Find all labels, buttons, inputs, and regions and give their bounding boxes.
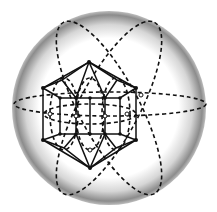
sphere (12, 11, 206, 205)
diagram-canvas (0, 0, 217, 212)
sphere-polyhedron-diagram (0, 0, 217, 212)
